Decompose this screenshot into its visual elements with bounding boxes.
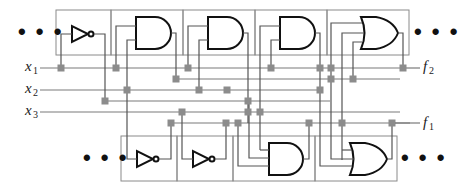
svg-text:1: 1 xyxy=(429,121,434,132)
ellipsis-top-right: • • • xyxy=(414,19,459,44)
svg-text:3: 3 xyxy=(33,109,38,120)
input-label-x3: x 3 xyxy=(24,102,38,120)
svg-text:x: x xyxy=(24,58,32,74)
svg-text:x: x xyxy=(24,102,32,118)
svg-text:x: x xyxy=(24,80,32,96)
ellipsis-top-left: • • • xyxy=(18,19,63,44)
switch-points xyxy=(58,65,406,126)
top-and-gate-2 xyxy=(188,17,248,123)
ellipsis-bottom-left: • • • xyxy=(83,145,128,170)
svg-text:2: 2 xyxy=(429,65,434,76)
top-or-gate xyxy=(331,17,420,160)
output-label-f1: f 1 xyxy=(423,114,434,132)
svg-text:1: 1 xyxy=(33,65,38,76)
output-label-f2: f 2 xyxy=(423,58,434,76)
bottom-not-gate-2 xyxy=(182,112,226,167)
input-label-x1: x 1 xyxy=(24,58,38,76)
logic-diagram: x 1 x 2 x 3 f 2 f 1 • • • • • • • • • • … xyxy=(0,0,460,191)
top-and-gate-1 xyxy=(116,17,176,90)
ellipsis-bottom-right: • • • xyxy=(401,145,446,170)
input-label-x2: x 2 xyxy=(24,80,38,98)
top-and-gate-3 xyxy=(260,17,320,150)
svg-text:2: 2 xyxy=(33,87,38,98)
bottom-or-gate xyxy=(320,68,392,175)
